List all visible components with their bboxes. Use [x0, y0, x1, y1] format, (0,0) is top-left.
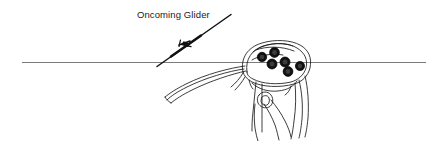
- cockpit-center-pillar-left: [252, 82, 256, 131]
- cockpit-group: [165, 41, 311, 141]
- cockpit-lower-member-a: [264, 104, 279, 140]
- instrument-gauge-5: [283, 67, 293, 77]
- instrument-panel-gauges: [257, 48, 304, 77]
- instrument-gauge-3: [267, 59, 277, 69]
- panel-bracket-left: [231, 73, 243, 87]
- figure-canvas: Oncoming Glider: [0, 0, 439, 141]
- illustration-svg: [0, 0, 439, 141]
- canopy-frame-left-edge: [167, 69, 244, 100]
- oncoming-glider-label: Oncoming Glider: [137, 9, 210, 21]
- cockpit-lower-member-b: [271, 100, 291, 137]
- glider-tail-fin: [179, 40, 181, 47]
- canopy-frame-right-inner: [299, 80, 302, 138]
- canopy-frame-left-lower: [171, 71, 246, 103]
- instrument-gauge-6: [295, 61, 304, 70]
- instrument-gauge-2: [270, 48, 280, 58]
- canopy-frame-right-outer: [305, 76, 308, 137]
- instrument-gauge-4: [280, 57, 290, 67]
- canopy-frame-left-tip: [165, 97, 171, 103]
- cockpit-lower-member-c: [254, 104, 258, 141]
- canopy-frame-right-mid: [291, 83, 296, 139]
- instrument-gauge-1: [257, 52, 266, 61]
- panel-bracket-left-2: [235, 77, 245, 90]
- oncoming-glider-group: [157, 15, 231, 67]
